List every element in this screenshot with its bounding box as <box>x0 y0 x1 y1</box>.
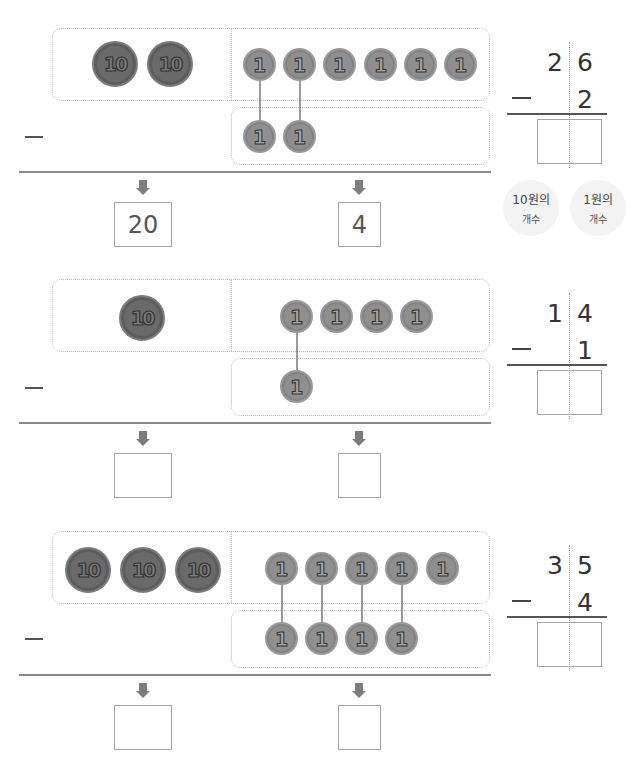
one-won-coin-subtract: 1 <box>305 622 338 655</box>
one-won-coin-subtract: 1 <box>265 622 298 655</box>
vertical-answer-box[interactable] <box>537 119 602 164</box>
one-won-coin-subtract: 1 <box>283 120 316 153</box>
result-line <box>19 674 491 676</box>
ten-won-coin: 10 <box>147 41 193 87</box>
one-won-coin-subtract: 1 <box>243 120 276 153</box>
minuend-tens-digit: 2 <box>547 50 563 75</box>
vertical-minus-sign <box>512 348 531 350</box>
tens-count-label: 10원의 개수 <box>503 180 559 236</box>
cross-out-line <box>259 80 261 120</box>
minuend-tens-digit: 1 <box>547 301 563 326</box>
one-won-coin: 1 <box>243 48 276 81</box>
tens-ones-divider <box>231 29 232 100</box>
tens-answer-box[interactable] <box>114 705 172 750</box>
one-won-coin: 1 <box>345 552 378 585</box>
vertical-answer-box[interactable] <box>537 370 602 415</box>
one-won-coin: 1 <box>444 48 477 81</box>
tens-ones-divider <box>231 280 232 351</box>
vertical-minus-sign <box>512 97 531 99</box>
down-arrow-icon <box>136 431 150 447</box>
ten-won-coin: 10 <box>120 547 166 593</box>
coin-frame-subtract <box>231 358 490 416</box>
vertical-result-line <box>507 113 607 115</box>
ten-won-coin: 10 <box>175 547 221 593</box>
one-won-coin: 1 <box>265 552 298 585</box>
one-won-coin: 1 <box>360 300 393 333</box>
ten-won-coin: 10 <box>119 295 165 341</box>
tens-answer-box[interactable]: 20 <box>114 202 172 247</box>
vertical-minus-sign <box>512 600 531 602</box>
ten-won-coin: 10 <box>65 547 111 593</box>
one-won-coin: 1 <box>323 48 356 81</box>
minus-sign <box>25 638 43 640</box>
subtrahend-ones-digit: 2 <box>577 87 593 112</box>
cross-out-line <box>299 80 301 120</box>
one-won-coin-subtract: 1 <box>385 622 418 655</box>
one-won-coin: 1 <box>426 552 459 585</box>
ten-won-coin: 10 <box>92 41 138 87</box>
one-won-coin: 1 <box>400 300 433 333</box>
one-won-coin: 1 <box>404 48 437 81</box>
down-arrow-icon <box>352 683 366 699</box>
ones-answer-box[interactable] <box>338 453 381 498</box>
ones-answer-box[interactable]: 4 <box>338 202 381 247</box>
cross-out-line <box>321 582 323 622</box>
cross-out-line <box>361 582 363 622</box>
minus-sign <box>25 387 43 389</box>
one-won-coin-subtract: 1 <box>280 370 313 403</box>
one-won-coin: 1 <box>364 48 397 81</box>
one-won-coin: 1 <box>283 48 316 81</box>
cross-out-line <box>401 582 403 622</box>
vertical-result-line <box>507 616 607 618</box>
minus-sign <box>25 136 43 138</box>
one-won-coin: 1 <box>385 552 418 585</box>
cross-out-line <box>296 330 298 370</box>
down-arrow-icon <box>352 180 366 196</box>
vertical-result-line <box>507 364 607 366</box>
down-arrow-icon <box>136 683 150 699</box>
tens-answer-box[interactable] <box>114 453 172 498</box>
one-won-coin-subtract: 1 <box>345 622 378 655</box>
one-won-coin: 1 <box>305 552 338 585</box>
result-line <box>19 422 491 424</box>
vertical-answer-box[interactable] <box>537 622 602 667</box>
tens-ones-divider <box>231 532 232 603</box>
one-won-coin: 1 <box>320 300 353 333</box>
one-won-coin: 1 <box>280 300 313 333</box>
subtrahend-ones-digit: 4 <box>577 590 593 615</box>
minuend-ones-digit: 6 <box>577 50 593 75</box>
down-arrow-icon <box>352 431 366 447</box>
down-arrow-icon <box>136 180 150 196</box>
ones-count-label: 1원의 개수 <box>570 180 626 236</box>
subtrahend-ones-digit: 1 <box>577 338 593 363</box>
ones-answer-box[interactable] <box>338 705 381 750</box>
minuend-ones-digit: 5 <box>577 553 593 578</box>
cross-out-line <box>281 582 283 622</box>
result-line <box>19 171 491 173</box>
minuend-tens-digit: 3 <box>547 553 563 578</box>
minuend-ones-digit: 4 <box>577 301 593 326</box>
